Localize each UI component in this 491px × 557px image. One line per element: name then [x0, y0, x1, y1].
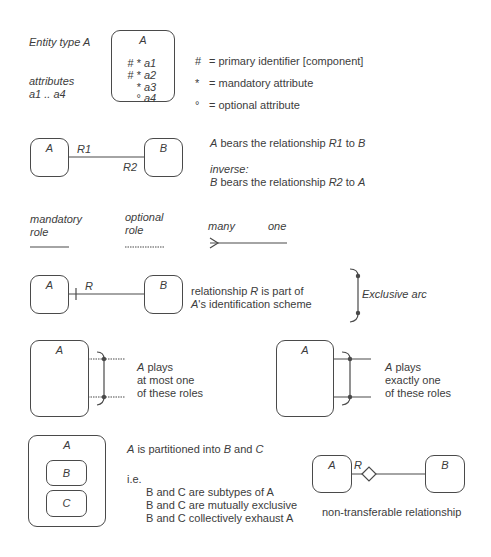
nontransferable-caption: non-transferable relationship — [322, 506, 461, 519]
exactly-one-text-3: of these roles — [385, 387, 451, 400]
key-symbol-mandatory: * — [195, 77, 199, 90]
one-label: one — [268, 220, 286, 233]
entity-name: A — [31, 344, 88, 356]
entity-name: B — [47, 467, 86, 479]
subtype-line: B and C are subtypes of A — [146, 486, 274, 499]
inverse-label: inverse: — [210, 163, 249, 176]
many-label: many — [208, 220, 235, 233]
inverse-description: B bears the relationship R2 to A — [210, 176, 365, 189]
relationship-name-r: R — [354, 459, 362, 472]
optional-role-label-2: role — [125, 224, 143, 237]
entity-name: A — [29, 439, 105, 451]
entity-name: A — [277, 344, 333, 356]
key-text-primary: = primary identifier [component] — [209, 55, 363, 68]
attr-name: a4 — [144, 92, 156, 105]
ie-label: i.e. — [127, 473, 142, 486]
entity-box-a: A — [30, 138, 69, 177]
relationship-name-r2: R2 — [123, 161, 137, 174]
entity-box-a: A — [312, 455, 352, 493]
subtype-line: B and C collectively exhaust A — [146, 512, 293, 525]
entity-box-b: B — [425, 455, 465, 493]
at-most-one-text-3: of these roles — [137, 387, 203, 400]
key-symbol-optional: ° — [195, 99, 199, 112]
optional-role-label: optional — [125, 211, 164, 224]
subtype-box-c: C — [46, 490, 87, 517]
entity-box-a: A — [30, 275, 69, 314]
mandatory-role-label: mandatory — [30, 213, 82, 226]
entity-box-b: B — [144, 138, 183, 177]
at-most-one-text-1: A plays — [137, 361, 173, 374]
entity-box-a: A — [30, 340, 89, 417]
key-symbol-primary: # — [195, 55, 201, 68]
legend-attributes-range: a1 .. a4 — [29, 88, 66, 101]
attr-marks: ° — [117, 92, 141, 105]
relationship-name-r: R — [85, 280, 93, 293]
entity-name: A — [112, 34, 174, 46]
entity-box-a: A — [276, 340, 334, 417]
legend-entity-title: Entity type A — [29, 36, 90, 49]
identification-text-1: relationship R is part of — [191, 285, 304, 298]
entity-name: B — [145, 279, 182, 291]
exactly-one-text-2: exactly one — [385, 374, 441, 387]
exclusive-arc-label: Exclusive arc — [362, 288, 427, 301]
entity-name: C — [47, 497, 86, 509]
relationship-name-r1: R1 — [77, 143, 91, 156]
entity-name: A — [313, 459, 351, 471]
legend-attributes-label: attributes — [29, 75, 74, 88]
key-text-mandatory: = mandatory attribute — [209, 77, 313, 90]
entity-name: B — [145, 142, 182, 154]
partition-heading: A is partitioned into B and C — [127, 443, 263, 456]
entity-name: B — [426, 459, 464, 471]
key-text-optional: = optional attribute — [209, 99, 300, 112]
entity-box-b: B — [144, 275, 183, 314]
mandatory-role-label-2: role — [30, 226, 48, 239]
at-most-one-text-2: at most one — [137, 374, 194, 387]
relationship-description: A bears the relationship R1 to B — [210, 137, 365, 150]
exactly-one-text-1: A plays — [385, 361, 421, 374]
identification-text-2: A's identification scheme — [191, 298, 312, 311]
entity-name: A — [31, 142, 68, 154]
subtype-line: B and C are mutually exclusive — [146, 499, 297, 512]
entity-name: A — [31, 279, 68, 291]
subtype-box-b: B — [46, 460, 87, 486]
